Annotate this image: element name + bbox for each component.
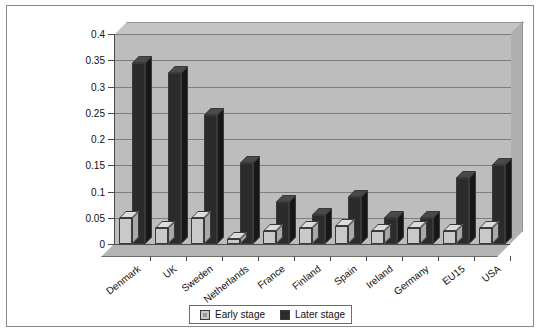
- bar-front-face: [263, 231, 276, 244]
- bar-early: [263, 231, 276, 244]
- bar-front-face: [191, 218, 204, 244]
- bar-front-face: [407, 228, 420, 244]
- x-axis-tick: [222, 256, 223, 261]
- legend-label: Later stage: [295, 309, 345, 320]
- legend-label: Early stage: [215, 309, 265, 320]
- legend-entry: Later stage: [280, 309, 345, 320]
- y-axis-tick: [108, 60, 114, 61]
- y-axis-labels: 00.050.10.150.20.250.30.350.4: [65, 6, 105, 328]
- bar-front-face: [299, 228, 312, 244]
- bar-later: [168, 73, 181, 244]
- bar-side-face: [469, 171, 476, 244]
- bar-side-face: [361, 190, 368, 244]
- y-axis-tick: [108, 244, 114, 245]
- bar-early: [371, 231, 384, 244]
- bar-side-face: [289, 195, 296, 244]
- x-axis-tick: [474, 256, 475, 261]
- bar-early: [299, 228, 312, 244]
- gridline: [115, 34, 511, 35]
- y-axis-tick: [108, 87, 114, 88]
- plot-area: [114, 34, 511, 244]
- bar-side-face: [217, 108, 224, 244]
- y-axis-tick: [108, 34, 114, 35]
- bar-early: [407, 228, 420, 244]
- y-axis-tick-label: 0.4: [91, 29, 105, 40]
- plot-floor-face: [101, 244, 510, 257]
- y-axis-tick: [108, 165, 114, 166]
- bar-front-face: [227, 239, 240, 244]
- bar-front-face: [119, 218, 132, 244]
- y-axis-tick-label: 0: [99, 239, 105, 250]
- x-axis-tick: [510, 256, 511, 261]
- x-axis-tick: [402, 256, 403, 261]
- bar-early: [191, 218, 204, 244]
- bar-side-face: [505, 158, 512, 244]
- bar-early: [443, 231, 456, 244]
- bar-early: [119, 218, 132, 244]
- bar-front-face: [479, 228, 492, 244]
- legend-entry: Early stage: [200, 309, 265, 320]
- x-axis-line: [114, 244, 510, 245]
- x-axis-tick: [366, 256, 367, 261]
- bar-early: [335, 226, 348, 244]
- chart-legend: Early stageLater stage: [189, 305, 352, 324]
- x-axis-tick: [438, 256, 439, 261]
- x-axis-tick: [294, 256, 295, 261]
- bar-early: [479, 228, 492, 244]
- legend-swatch-early: [200, 310, 210, 320]
- bar-early: [155, 228, 168, 244]
- y-axis-tick: [108, 218, 114, 219]
- y-axis-tick-label: 0.2: [91, 134, 105, 145]
- y-axis-tick-label: 0.15: [86, 160, 105, 171]
- y-axis-tick-label: 0.3: [91, 81, 105, 92]
- y-axis-line: [114, 34, 115, 244]
- legend-swatch-later: [280, 310, 290, 320]
- bar-front-face: [155, 228, 168, 244]
- x-axis-tick: [150, 256, 151, 261]
- gridline: [115, 60, 511, 61]
- bar-front-face: [443, 231, 456, 244]
- y-axis-tick: [108, 113, 114, 114]
- bar-early: [227, 239, 240, 244]
- bar-side-face: [145, 56, 152, 244]
- y-axis-tick: [108, 139, 114, 140]
- x-axis-tick: [330, 256, 331, 261]
- y-axis-tick-label: 0.35: [86, 55, 105, 66]
- bar-side-face: [181, 66, 188, 244]
- bar-front-face: [335, 226, 348, 244]
- y-axis-tick-label: 0.25: [86, 107, 105, 118]
- chart-frame: 00.050.10.150.20.250.30.350.4 DenmarkUKS…: [6, 5, 534, 327]
- plot-wrap: 00.050.10.150.20.250.30.350.4 DenmarkUKS…: [7, 6, 535, 328]
- x-axis-tick: [258, 256, 259, 261]
- bar-front-face: [371, 231, 384, 244]
- y-axis-tick-label: 0.05: [86, 212, 105, 223]
- x-axis-tick: [186, 256, 187, 261]
- y-axis-tick-label: 0.1: [91, 186, 105, 197]
- y-axis-tick: [108, 192, 114, 193]
- bar-side-face: [253, 156, 260, 244]
- bar-front-face: [168, 73, 181, 244]
